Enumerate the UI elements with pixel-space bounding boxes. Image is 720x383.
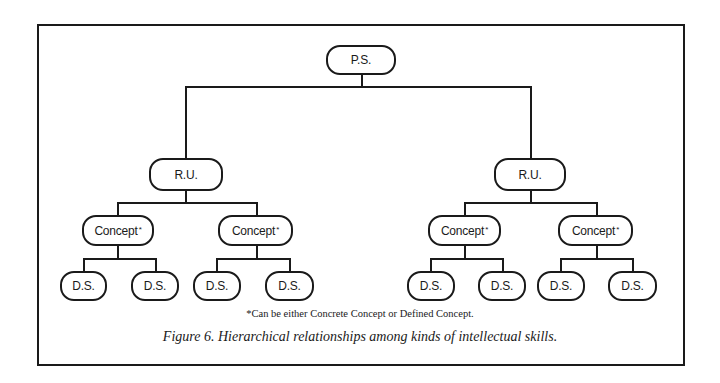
node-label: D.S.	[491, 279, 514, 293]
connector	[185, 86, 532, 88]
connector	[464, 245, 466, 259]
connector	[632, 258, 634, 272]
connector	[289, 258, 291, 272]
node-label: D.S.	[72, 279, 95, 293]
connector	[464, 202, 466, 216]
node-label: Concept	[232, 224, 275, 238]
asterisk-mark: *	[616, 225, 619, 234]
connector	[596, 202, 598, 216]
node-discrimination-3: D.S.	[193, 271, 241, 301]
node-concept-1: Concept*	[82, 215, 154, 246]
node-label: D.S.	[206, 279, 229, 293]
connector	[216, 258, 291, 260]
connector	[560, 258, 562, 272]
connector	[430, 258, 504, 260]
node-label: Concept	[441, 224, 484, 238]
connector	[185, 86, 187, 159]
node-discrimination-5: D.S.	[407, 271, 455, 301]
connector	[256, 202, 258, 216]
connector	[464, 202, 598, 204]
connector	[502, 258, 504, 272]
connector	[430, 258, 432, 272]
node-concept-2: Concept*	[218, 215, 293, 246]
connector	[83, 258, 85, 272]
asterisk-mark: *	[139, 225, 142, 234]
node-rule-left: R.U.	[149, 158, 223, 191]
connector	[117, 202, 258, 204]
node-discrimination-2: D.S.	[131, 271, 179, 301]
node-problem-solving: P.S.	[326, 45, 396, 75]
footnote: *Can be either Concrete Concept or Defin…	[0, 308, 720, 319]
node-label: D.S.	[550, 279, 573, 293]
connector	[155, 258, 157, 272]
connector	[596, 245, 598, 259]
connector	[117, 245, 119, 259]
node-concept-4: Concept*	[558, 215, 633, 246]
node-discrimination-4: D.S.	[265, 271, 314, 301]
asterisk-mark: *	[485, 225, 488, 234]
figure-caption: Figure 6. Hierarchical relationships amo…	[0, 329, 720, 345]
node-label: D.S.	[278, 279, 301, 293]
node-label: D.S.	[621, 279, 644, 293]
asterisk-mark: *	[276, 225, 279, 234]
node-discrimination-8: D.S.	[608, 271, 657, 301]
node-label: Concept	[572, 224, 615, 238]
connector	[560, 258, 634, 260]
node-label: R.U.	[518, 168, 541, 182]
connector	[83, 258, 157, 260]
connector	[117, 202, 119, 216]
node-rule-right: R.U.	[494, 158, 566, 191]
node-label: P.S.	[351, 53, 371, 67]
connector	[530, 86, 532, 159]
node-discrimination-6: D.S.	[478, 271, 526, 301]
connector	[216, 258, 218, 272]
node-discrimination-7: D.S.	[537, 271, 585, 301]
connector	[256, 245, 258, 259]
node-label: D.S.	[144, 279, 167, 293]
node-label: R.U.	[174, 168, 197, 182]
node-concept-3: Concept*	[428, 215, 501, 246]
node-discrimination-1: D.S.	[60, 271, 107, 301]
node-label: Concept	[94, 224, 137, 238]
node-label: D.S.	[420, 279, 443, 293]
